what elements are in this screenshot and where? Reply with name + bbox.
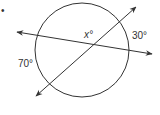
bullet-marker: • <box>1 5 5 16</box>
arc-right-label: 30° <box>132 30 147 41</box>
secant-line-diagonal <box>36 7 136 96</box>
circle <box>35 3 129 97</box>
arc-left-label: 70° <box>18 58 33 69</box>
geometry-diagram: • x° 30° 70° <box>0 0 160 115</box>
angle-x-label: x° <box>83 29 93 40</box>
